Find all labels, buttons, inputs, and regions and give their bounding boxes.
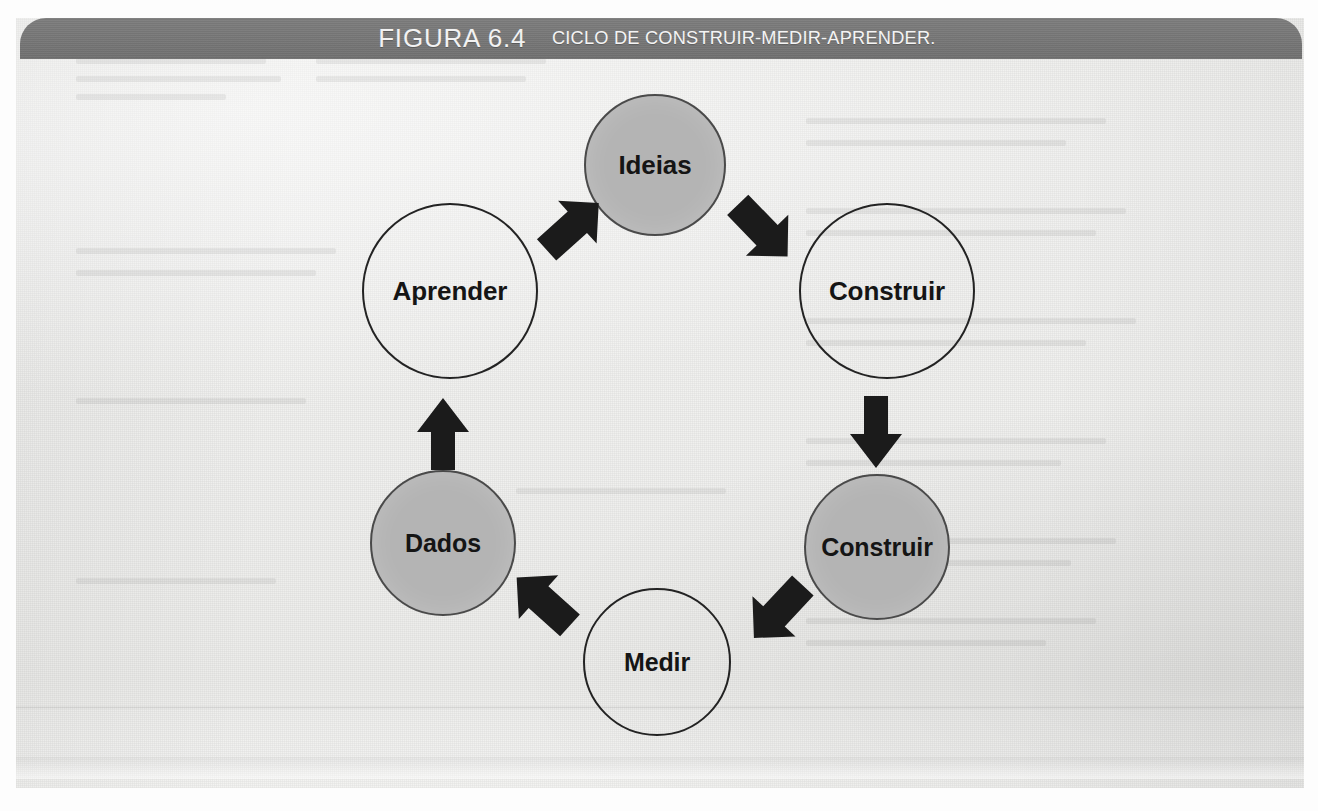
node-medir-label: Medir xyxy=(624,650,690,675)
node-construir-top-label: Construir xyxy=(829,278,945,304)
node-construir-bottom[interactable]: Construir xyxy=(804,474,950,620)
node-aprender[interactable]: Aprender xyxy=(362,203,538,379)
figure-page: FIGURA 6.4 CICLO DE CONSTRUIR-MEDIR-APRE… xyxy=(0,0,1318,811)
arrow-dados-to-aprender xyxy=(414,396,472,470)
node-dados-label: Dados xyxy=(405,531,481,556)
arrow-construir-bottom-to-medir xyxy=(733,565,825,657)
arrow-construir-top-to-construir-bottom xyxy=(847,396,905,470)
arrow-medir-to-dados xyxy=(498,556,590,648)
node-ideias-label: Ideias xyxy=(618,152,691,178)
node-medir[interactable]: Medir xyxy=(583,588,731,736)
build-measure-learn-cycle-diagram: Ideias Construir Construir Medir Dados A… xyxy=(0,0,1318,811)
arrow-aprender-to-ideias xyxy=(527,182,617,272)
node-construir-top[interactable]: Construir xyxy=(799,203,975,379)
node-aprender-label: Aprender xyxy=(393,278,508,304)
arrow-ideias-to-construir-top xyxy=(716,184,808,276)
node-dados[interactable]: Dados xyxy=(370,470,516,616)
node-construir-bottom-label: Construir xyxy=(821,535,933,560)
